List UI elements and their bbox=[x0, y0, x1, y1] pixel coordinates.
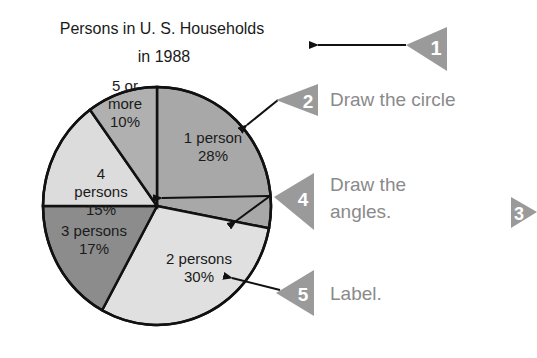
slice-label: 10% bbox=[110, 113, 140, 130]
slice-label: 28% bbox=[198, 147, 228, 164]
slice-label: 3 persons bbox=[61, 222, 127, 239]
arrow-step-2 bbox=[247, 100, 278, 125]
svg-text:5: 5 bbox=[298, 284, 309, 305]
slice-label: 30% bbox=[184, 268, 214, 285]
step-badge-3: 3 bbox=[511, 197, 537, 228]
slice-label: 17% bbox=[79, 240, 109, 257]
svg-text:2: 2 bbox=[303, 91, 314, 112]
slice-label: more bbox=[108, 95, 142, 112]
svg-text:3: 3 bbox=[514, 204, 524, 224]
step-2-text: Draw the circle bbox=[330, 88, 456, 112]
step-badge-5: 5 bbox=[276, 270, 314, 316]
step-badge-4: 4 bbox=[274, 173, 314, 230]
step-5-text: Label. bbox=[330, 282, 382, 306]
slice-label: persons bbox=[74, 183, 127, 200]
slice-label: 15% bbox=[86, 201, 116, 218]
svg-text:1: 1 bbox=[430, 37, 441, 59]
slice-label: 5 or bbox=[112, 77, 138, 94]
svg-text:4: 4 bbox=[298, 189, 309, 210]
step-badge-1: 1 bbox=[406, 27, 447, 71]
slice-label: 2 persons bbox=[166, 250, 232, 267]
step-badge-2: 2 bbox=[276, 84, 318, 116]
slice-label: 1 person bbox=[184, 129, 242, 146]
slice-label: 4 bbox=[97, 165, 105, 182]
step-4-text-line-2: angles. bbox=[330, 200, 391, 224]
step-4-text-line-1: Draw the bbox=[330, 173, 406, 197]
pie-chart: 1 person28%2 persons30%3 persons17%4pers… bbox=[0, 0, 537, 358]
